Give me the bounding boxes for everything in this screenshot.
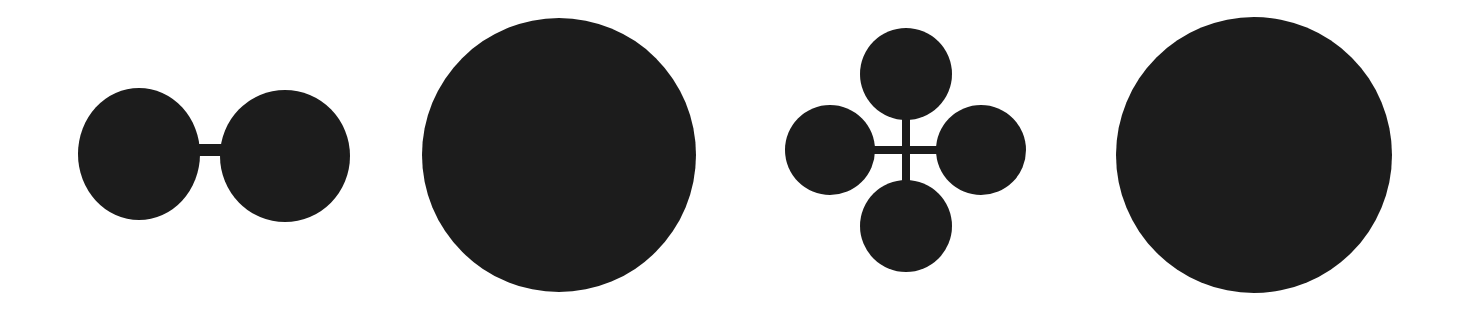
lobe-circle-1 [78,88,200,220]
cross-horizontal-bar [830,146,981,154]
bridge-bar [196,144,224,156]
shapes-figure [0,0,1462,310]
large-circle-1 [422,18,696,292]
large-circle-1-circle [422,18,696,292]
four-lobe-shape [785,28,1026,272]
large-circle-2-circle [1116,17,1392,293]
large-circle-2 [1116,17,1392,293]
lobe-circle-2 [220,90,350,222]
two-lobe-shape [78,88,350,222]
